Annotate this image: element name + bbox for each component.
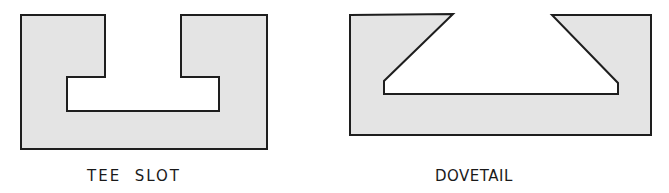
tee-slot-label: TEE SLOT <box>87 167 181 185</box>
diagram-canvas <box>0 0 669 193</box>
dovetail-shape <box>350 14 651 135</box>
tee-slot-shape <box>21 15 267 149</box>
dovetail-label: DOVETAIL <box>435 167 513 185</box>
